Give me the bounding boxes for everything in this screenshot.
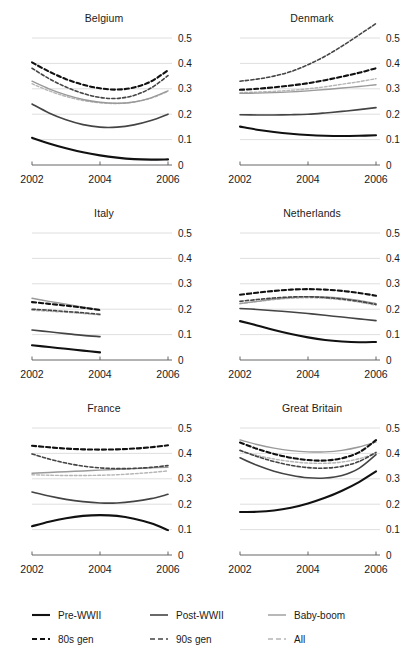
plot-area: 00.10.20.30.40.5200220042006	[0, 10, 208, 205]
data-series-group	[32, 62, 168, 159]
y-tick-label: 0	[386, 550, 392, 561]
y-tick-label: 0.5	[178, 228, 192, 239]
y-tick-label: 0.2	[178, 109, 192, 120]
x-tick-label: 2006	[156, 563, 180, 575]
x-tick-label: 2006	[364, 563, 388, 575]
y-tick-label: 0.4	[178, 448, 192, 459]
x-tick-label: 2004	[88, 173, 112, 185]
x-tick-label: 2004	[296, 563, 320, 575]
x-axis	[32, 357, 172, 361]
legend-row-1: Pre-WWIIPost-WWIIBaby-boom	[0, 604, 416, 626]
y-tick-label: 0.1	[178, 329, 192, 340]
y-tick-label: 0.3	[178, 83, 192, 94]
y-tick-label: 0.5	[178, 33, 192, 44]
gridlines	[240, 428, 380, 530]
y-tick-labels: 00.10.20.30.40.5	[178, 228, 192, 366]
figure-canvas: Belgium00.10.20.30.40.5200220042006 Denm…	[0, 0, 416, 655]
y-tick-label: 0	[178, 355, 184, 366]
y-tick-label: 0.4	[178, 253, 192, 264]
y-tick-label: 0.3	[178, 278, 192, 289]
series-line	[32, 515, 168, 530]
legend-item[interactable]: Pre-WWII	[31, 604, 149, 626]
x-tick-label: 2002	[228, 563, 252, 575]
series-line	[32, 445, 168, 449]
x-tick-labels: 200220042006	[228, 173, 388, 185]
legend-label: Pre-WWII	[58, 610, 101, 621]
y-tick-label: 0.3	[386, 83, 400, 94]
x-tick-label: 2004	[88, 563, 112, 575]
y-tick-label: 0.2	[386, 109, 400, 120]
series-line	[240, 24, 376, 82]
series-line	[240, 308, 376, 320]
data-series-group	[240, 24, 376, 137]
legend-item[interactable]: Baby-boom	[267, 604, 385, 626]
plot-area: 00.10.20.30.40.5200220042006	[208, 10, 416, 205]
legend-label: Baby-boom	[294, 610, 345, 621]
plot-area: 00.10.20.30.40.5200220042006	[0, 400, 208, 595]
y-tick-labels: 00.10.20.30.40.5	[386, 33, 400, 171]
legend-item[interactable]: All	[267, 628, 385, 650]
plot-area: 00.10.20.30.40.5200220042006	[208, 400, 416, 595]
legend: Pre-WWIIPost-WWIIBaby-boom 80s gen90s ge…	[0, 600, 416, 655]
y-tick-label: 0.4	[386, 448, 400, 459]
legend-label: All	[294, 634, 305, 645]
y-tick-label: 0.3	[386, 278, 400, 289]
y-tick-label: 0	[386, 160, 392, 171]
gridlines	[32, 233, 172, 335]
legend-line-swatch-icon	[267, 610, 287, 620]
plot-area: 00.10.20.30.40.5200220042006	[208, 205, 416, 400]
x-tick-labels: 200220042006	[228, 563, 388, 575]
x-tick-label: 2006	[364, 368, 388, 380]
x-tick-labels: 200220042006	[20, 563, 180, 575]
y-tick-label: 0.5	[386, 33, 400, 44]
y-tick-label: 0.5	[386, 423, 400, 434]
series-line	[32, 84, 168, 104]
y-tick-label: 0.1	[386, 524, 400, 535]
series-line	[32, 62, 168, 89]
x-axis	[240, 357, 380, 361]
x-tick-label: 2002	[20, 368, 44, 380]
x-tick-labels: 200220042006	[20, 368, 180, 380]
series-line	[32, 330, 100, 337]
panel-france: France00.10.20.30.40.5200220042006	[0, 400, 208, 595]
y-tick-label: 0.2	[178, 499, 192, 510]
y-tick-label: 0.3	[178, 473, 192, 484]
y-tick-label: 0.1	[386, 329, 400, 340]
y-tick-label: 0.5	[178, 423, 192, 434]
series-line	[32, 138, 168, 160]
legend-item[interactable]: Post-WWII	[149, 604, 267, 626]
x-tick-labels: 200220042006	[228, 368, 388, 380]
series-line	[32, 104, 168, 127]
panel-italy: Italy00.10.20.30.40.5200220042006	[0, 205, 208, 400]
x-tick-label: 2002	[20, 563, 44, 575]
y-tick-label: 0.1	[178, 524, 192, 535]
legend-label: 90s gen	[176, 634, 212, 645]
legend-label: 80s gen	[58, 634, 94, 645]
series-line	[240, 127, 376, 136]
legend-item[interactable]: 80s gen	[31, 628, 149, 650]
y-tick-label: 0.2	[386, 499, 400, 510]
x-tick-label: 2006	[364, 173, 388, 185]
legend-line-swatch-icon	[31, 610, 51, 620]
panel-denmark: Denmark00.10.20.30.40.5200220042006	[208, 10, 416, 205]
y-tick-label: 0	[178, 160, 184, 171]
series-line	[32, 302, 100, 310]
x-tick-label: 2002	[228, 173, 252, 185]
x-tick-label: 2004	[296, 368, 320, 380]
x-tick-label: 2004	[296, 173, 320, 185]
legend-row-2: 80s gen90s genAll	[0, 628, 416, 650]
legend-line-swatch-icon	[149, 634, 169, 644]
data-series-group	[240, 440, 376, 512]
y-tick-label: 0.2	[386, 304, 400, 315]
y-tick-label: 0.4	[178, 58, 192, 69]
legend-label: Post-WWII	[176, 610, 224, 621]
y-tick-labels: 00.10.20.30.40.5	[178, 423, 192, 561]
y-tick-labels: 00.10.20.30.40.5	[386, 228, 400, 366]
y-tick-label: 0.1	[386, 134, 400, 145]
legend-item[interactable]: 90s gen	[149, 628, 267, 650]
series-line	[240, 321, 376, 342]
y-tick-label: 0.4	[386, 58, 400, 69]
y-tick-label: 0.4	[386, 253, 400, 264]
x-axis	[240, 162, 380, 166]
x-axis	[32, 162, 172, 166]
